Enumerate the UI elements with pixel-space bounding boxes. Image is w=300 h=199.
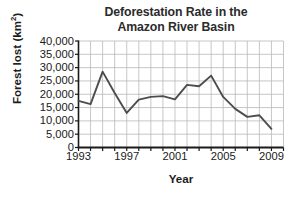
plot-area bbox=[0, 0, 300, 199]
chart-container: Deforestation Rate in the Amazon River B… bbox=[0, 0, 300, 199]
